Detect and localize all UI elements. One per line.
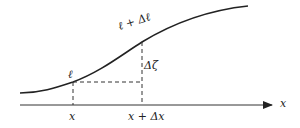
label-ell: ℓ [68, 69, 73, 80]
label-delta-zeta: Δζ [144, 60, 158, 71]
tick-label-x-plus-delta-x: x + Δx [128, 111, 165, 122]
tick-label-x: x [69, 111, 75, 122]
axis-label-x: x [280, 98, 286, 109]
